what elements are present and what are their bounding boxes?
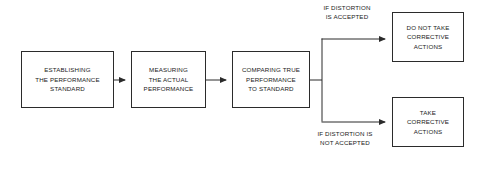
node-line: DO NOT TAKE — [407, 23, 450, 32]
node-line: TO STANDARD — [248, 84, 293, 93]
node-line: MEASURING — [149, 65, 188, 74]
node-line: ACTIONS — [414, 127, 443, 136]
node-line: THE PERFORMANCE — [35, 75, 99, 84]
node-line: PERFORMANCE — [144, 84, 194, 93]
node-do-not-take-corrective-actions: DO NOT TAKE CORRECTIVE ACTIONS — [392, 12, 464, 62]
edge-label-if-distortion-is-accepted: IF DISTORTION IS ACCEPTED — [308, 3, 386, 22]
node-line: THE ACTUAL — [149, 75, 189, 84]
node-comparing-true-performance-to-standard: COMPARING TRUE PERFORMANCE TO STANDARD — [232, 51, 310, 108]
edge-label-line: NOT ACCEPTED — [302, 138, 388, 147]
flowchart-canvas: ESTABLISHING THE PERFORMANCE STANDARD ME… — [0, 0, 485, 178]
node-line: ESTABLISHING — [44, 65, 90, 74]
edge-label-line: IS ACCEPTED — [308, 12, 386, 21]
edge-label-line: IF DISTORTION — [308, 3, 386, 12]
node-line: STANDARD — [50, 84, 85, 93]
edge-label-if-distortion-is-not-accepted: IF DISTORTION IS NOT ACCEPTED — [302, 129, 388, 148]
node-measuring-the-actual-performance: MEASURING THE ACTUAL PERFORMANCE — [131, 51, 206, 108]
node-take-corrective-actions: TAKE CORRECTIVE ACTIONS — [392, 97, 464, 147]
node-line: CORRECTIVE — [407, 32, 449, 41]
node-line: CORRECTIVE — [407, 117, 449, 126]
node-line: COMPARING TRUE — [242, 65, 300, 74]
edge-label-line: IF DISTORTION IS — [302, 129, 388, 138]
node-line: ACTIONS — [414, 42, 443, 51]
node-line: TAKE — [420, 108, 436, 117]
node-establishing-the-performance-standard: ESTABLISHING THE PERFORMANCE STANDARD — [21, 51, 114, 108]
connector-compare-to-branch — [310, 39, 322, 122]
node-line: PERFORMANCE — [246, 75, 296, 84]
